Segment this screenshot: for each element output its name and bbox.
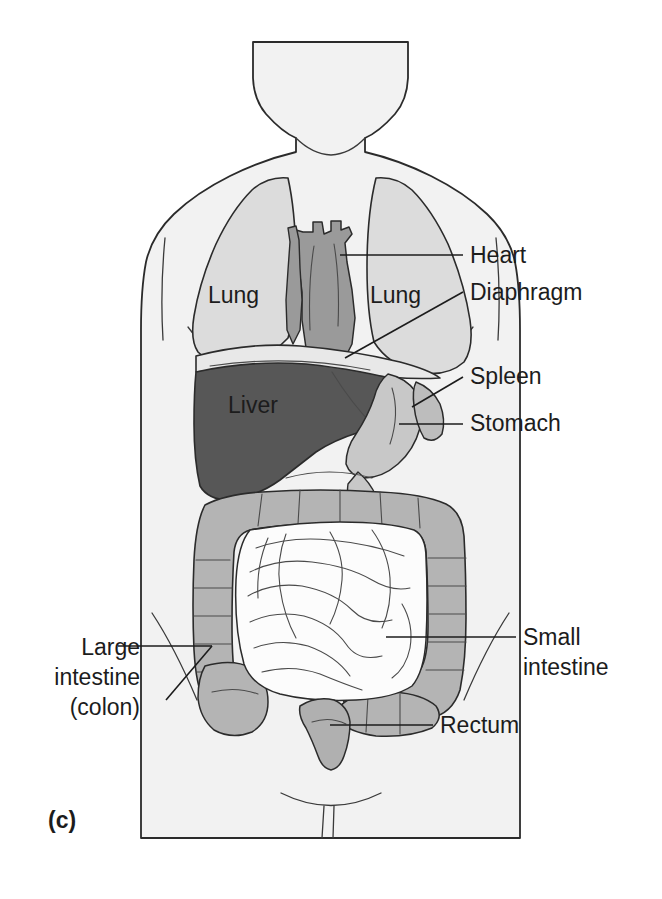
anatomy-figure: Lung Lung Liver Heart Diaphragm Spleen S… <box>0 0 662 899</box>
label-lung-left: Lung <box>208 282 259 308</box>
label-rectum: Rectum <box>440 712 519 738</box>
label-small-intestine-line2: intestine <box>523 654 609 680</box>
label-spleen: Spleen <box>470 363 542 389</box>
anatomy-diagram-canvas: Lung Lung Liver Heart Diaphragm Spleen S… <box>0 0 662 899</box>
label-lung-right: Lung <box>370 282 421 308</box>
label-diaphragm: Diaphragm <box>470 279 583 305</box>
label-large-intestine-line2: intestine <box>54 664 140 690</box>
label-stomach: Stomach <box>470 410 561 436</box>
label-liver: Liver <box>228 392 278 418</box>
figure-caption: (c) <box>48 807 76 833</box>
small-intestine-group <box>236 522 427 700</box>
label-large-intestine-line3: (colon) <box>70 694 140 720</box>
label-heart: Heart <box>470 242 527 268</box>
label-small-intestine-line1: Small <box>523 624 581 650</box>
label-large-intestine-line1: Large <box>81 634 140 660</box>
